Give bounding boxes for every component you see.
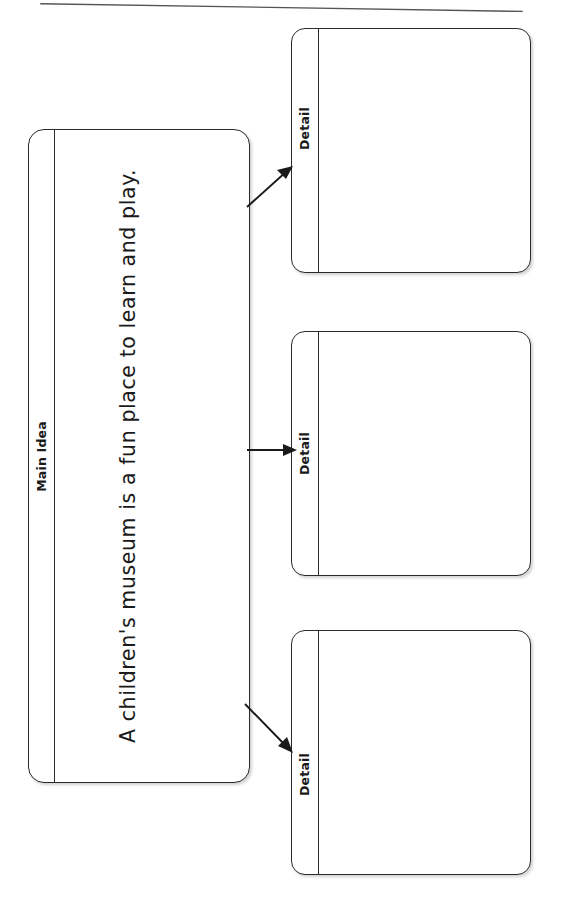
detail-box-1[interactable]: Detail bbox=[291, 28, 531, 273]
main-idea-label-strip: Main Idea bbox=[29, 130, 54, 782]
detail-2-label: Detail bbox=[298, 432, 313, 475]
detail-2-write-area[interactable] bbox=[319, 332, 530, 575]
detail-box-3[interactable]: Detail bbox=[291, 630, 531, 875]
main-idea-write-area[interactable]: A children's museum is a fun place to le… bbox=[55, 130, 249, 782]
main-idea-text: A children's museum is a fun place to le… bbox=[116, 169, 140, 743]
worksheet-page: Main Idea A children's museum is a fun p… bbox=[0, 0, 563, 901]
detail-1-write-area[interactable] bbox=[319, 29, 530, 272]
detail-3-label: Detail bbox=[298, 753, 313, 796]
page-edge-line bbox=[0, 2, 563, 14]
detail-2-label-strip: Detail bbox=[292, 332, 318, 575]
detail-1-label: Detail bbox=[298, 107, 313, 150]
main-idea-label: Main Idea bbox=[34, 421, 49, 492]
main-idea-box[interactable]: Main Idea A children's museum is a fun p… bbox=[28, 129, 250, 783]
detail-1-label-strip: Detail bbox=[292, 29, 318, 272]
detail-3-write-area[interactable] bbox=[319, 631, 530, 874]
detail-3-label-strip: Detail bbox=[292, 631, 318, 874]
detail-box-2[interactable]: Detail bbox=[291, 331, 531, 576]
